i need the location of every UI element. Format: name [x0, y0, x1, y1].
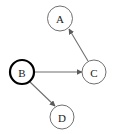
- graph-diagram: A B C D: [0, 0, 114, 134]
- node-a-label: A: [56, 13, 64, 25]
- node-d[interactable]: D: [50, 105, 74, 129]
- node-layer: A B C D: [10, 6, 106, 129]
- node-d-label: D: [58, 112, 66, 124]
- node-c-label: C: [90, 67, 97, 79]
- node-b-label: B: [18, 67, 25, 79]
- edge-layer: [30, 29, 88, 106]
- node-a[interactable]: A: [48, 6, 73, 31]
- node-c[interactable]: C: [82, 60, 106, 84]
- node-b[interactable]: B: [10, 60, 34, 84]
- edge-b-to-d[interactable]: [30, 82, 55, 106]
- edge-c-to-a[interactable]: [69, 29, 88, 61]
